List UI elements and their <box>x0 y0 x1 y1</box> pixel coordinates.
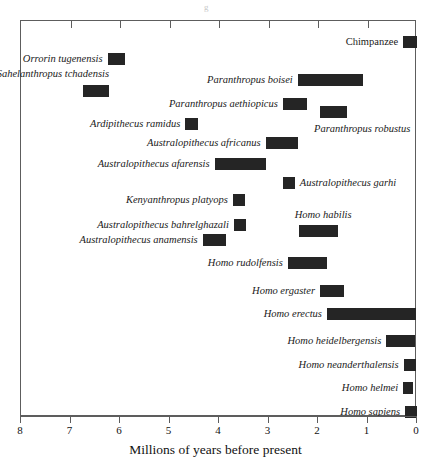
x-axis-tick <box>70 416 71 423</box>
species-range-bar <box>283 177 295 189</box>
species-label: Australopithecus garhi <box>300 176 396 190</box>
x-axis-tick <box>169 416 170 423</box>
species-label: Homo erectus <box>264 307 322 321</box>
species-label: Paranthropus robustus <box>314 122 410 136</box>
species-range-bar <box>203 234 226 246</box>
species-label: Kenyanthropus platyops <box>126 193 228 207</box>
species-label: Homo heidelbergensis <box>288 334 382 348</box>
species-label: Chimpanzee <box>346 35 398 49</box>
species-range-row: Homo helmei <box>21 381 417 395</box>
species-range-row: Homo ergaster <box>21 284 417 298</box>
species-range-bar <box>288 257 327 269</box>
species-label: Australopithecus africanus <box>147 136 260 150</box>
x-axis-tick-label: 4 <box>208 424 228 437</box>
hominin-timeline-figure: g ChimpanzeeOrrorin tugenensisSahelanthr… <box>0 0 431 470</box>
species-range-row: Australopithecus anamensis <box>21 233 417 247</box>
species-range-row: Paranthropus robustus <box>21 105 417 119</box>
species-range-row: Australopithecus afarensis <box>21 157 417 171</box>
x-axis-tick <box>317 416 318 423</box>
species-range-bar <box>320 285 344 297</box>
top-page-mark: g <box>204 2 209 12</box>
x-axis-tick <box>416 416 417 423</box>
species-label: Homo rudolfensis <box>208 256 283 270</box>
species-label: Homo helmei <box>342 381 398 395</box>
species-label: Paranthropus boisei <box>207 73 293 87</box>
x-axis-tick-label: 8 <box>10 424 30 437</box>
species-label: Australopithecus anamensis <box>80 233 198 247</box>
species-label: Homo ergaster <box>252 284 315 298</box>
species-label: Homo neanderthalensis <box>299 358 399 372</box>
species-range-bar <box>404 359 416 371</box>
x-axis-tick-label: 1 <box>357 424 377 437</box>
x-axis-tick-label: 6 <box>109 424 129 437</box>
species-range-bar <box>233 194 245 206</box>
species-label: Ardipithecus ramidus <box>90 117 180 131</box>
species-range-bar <box>327 308 416 320</box>
species-range-row: Homo neanderthalensis <box>21 358 417 372</box>
x-axis-tick <box>20 416 21 423</box>
range-bars-layer: ChimpanzeeOrrorin tugenensisSahelanthrop… <box>21 21 417 417</box>
species-range-row: Homo erectus <box>21 307 417 321</box>
species-range-bar <box>185 118 197 130</box>
species-range-bar <box>215 158 266 170</box>
species-range-bar <box>108 53 125 65</box>
x-axis-tick-label: 2 <box>307 424 327 437</box>
species-range-row: Australopithecus africanus <box>21 136 417 150</box>
x-axis-tick <box>268 416 269 423</box>
species-range-bar <box>386 335 415 347</box>
species-range-row: Orrorin tugenensis <box>21 52 417 66</box>
x-axis-tick <box>367 416 368 423</box>
x-axis-tick <box>218 416 219 423</box>
species-range-row: Homo rudolfensis <box>21 256 417 270</box>
species-range-bar <box>298 74 363 86</box>
x-axis-tick-label: 5 <box>159 424 179 437</box>
plot-frame: ChimpanzeeOrrorin tugenensisSahelanthrop… <box>20 20 416 416</box>
species-range-row: Homo heidelbergensis <box>21 334 417 348</box>
species-label: Homo habilis <box>295 208 352 222</box>
x-axis-title: Millions of years before present <box>0 442 431 458</box>
species-range-bar <box>320 106 347 118</box>
species-range-row: Chimpanzee <box>21 35 417 49</box>
x-axis-tick-label: 0 <box>406 424 426 437</box>
species-range-row: Kenyanthropus platyops <box>21 193 417 207</box>
x-axis-tick-label: 7 <box>60 424 80 437</box>
species-range-row: Paranthropus boisei <box>21 73 417 87</box>
species-range-bar <box>403 36 417 48</box>
x-axis-tick-label: 3 <box>258 424 278 437</box>
species-label: Australopithecus afarensis <box>98 157 210 171</box>
species-range-bar <box>266 137 298 149</box>
x-axis-tick <box>119 416 120 423</box>
species-label: Orrorin tugenensis <box>23 52 103 66</box>
species-range-row: Australopithecus garhi <box>21 176 417 190</box>
species-range-bar <box>403 382 413 394</box>
